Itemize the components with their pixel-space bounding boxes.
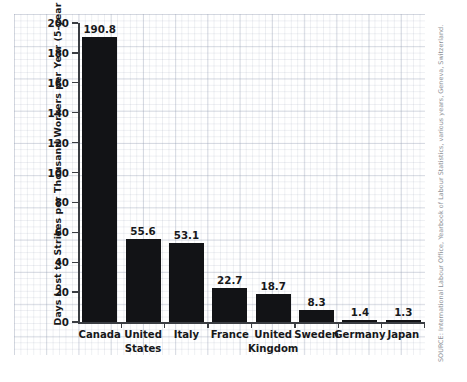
bar-group: 190.8 [82,23,117,322]
x-axis-category-label-line: Canada [79,329,121,340]
bar-value-label: 18.7 [260,280,285,292]
bar[interactable] [256,294,291,322]
x-axis-category-label: Germany [334,328,385,342]
plot-area: 020406080100120140160180200 190.8Canada5… [78,23,425,322]
y-axis-tick [72,112,78,113]
bar-value-label: 8.3 [307,296,325,308]
y-axis-tick [72,291,78,292]
bar-value-label: 1.3 [394,306,412,318]
x-axis-category-label: Canada [79,328,121,342]
bar[interactable] [169,243,204,322]
bar-group: 1.4 [342,23,377,322]
y-axis-tick [72,22,78,23]
y-axis-tick [72,142,78,143]
bar-value-label: 53.1 [174,229,199,241]
bar-group: 1.3 [386,23,421,322]
y-axis-tick-label: 200 [48,17,70,29]
x-axis-category-label: Sweden [294,328,339,342]
y-axis-tick-label: 160 [48,77,70,89]
bar[interactable] [299,310,334,322]
bar-value-label: 1.4 [351,306,369,318]
source-note-container: SOURCE: International Labour Office, Yea… [432,18,450,363]
y-axis-tick-label: 60 [55,226,69,238]
x-axis-category-label-line: Sweden [294,329,339,340]
x-axis-tick [207,322,208,328]
x-axis-category-label-line: France [211,329,249,340]
y-axis-tick-label: 180 [48,47,70,59]
x-axis-category-label: UnitedKingdom [248,328,298,355]
y-axis-tick [72,321,78,322]
bar-group: 55.6 [126,23,161,322]
y-axis-tick-label: 80 [55,196,69,208]
y-axis-tick [72,202,78,203]
bar[interactable] [342,320,377,322]
x-axis-category-label-line: United [124,329,162,340]
y-axis-tick-label: 120 [48,137,70,149]
y-axis-line [78,23,80,322]
x-axis-category-label-line: Italy [174,329,199,340]
bar[interactable] [126,239,161,322]
y-axis-tick-label: 40 [55,256,69,268]
bar-value-label: 55.6 [130,225,155,237]
y-axis-tick-label: 20 [55,286,69,298]
x-axis-tick [164,322,165,328]
y-axis-tick [72,262,78,263]
x-axis-category-label-line: States [124,342,162,356]
x-axis-category-label-line: Japan [387,329,419,340]
x-axis-category-label: Japan [387,328,419,342]
y-axis-tick [72,172,78,173]
y-axis-tick [72,52,78,53]
bar[interactable] [212,288,247,322]
x-axis-category-label-line: Kingdom [248,342,298,356]
bar-group: 53.1 [169,23,204,322]
bar-value-label: 190.8 [83,23,116,35]
x-axis-category-label: France [211,328,249,342]
x-axis-category-label-line: Germany [334,329,385,340]
bar-group: 22.7 [212,23,247,322]
x-axis-tick-end [424,322,425,328]
bar-group: 18.7 [256,23,291,322]
y-axis-title-container: Days Lost to Strikes per Thousand Worker… [22,15,40,325]
bar-group: 8.3 [299,23,334,322]
x-axis-tick [121,322,122,328]
y-axis-tick [72,232,78,233]
x-axis-category-label: UnitedStates [124,328,162,355]
source-note: SOURCE: International Labour Office, Yea… [437,16,445,362]
y-axis-tick [72,82,78,83]
x-axis-category-label-line: United [254,329,292,340]
y-axis-tick-label: 0 [62,316,69,328]
y-axis-tick-label: 140 [48,107,70,119]
bar[interactable] [82,37,117,322]
y-axis-tick-label: 100 [48,167,70,179]
bar-value-label: 22.7 [217,274,242,286]
bar[interactable] [386,320,421,322]
x-axis-category-label: Italy [174,328,199,342]
